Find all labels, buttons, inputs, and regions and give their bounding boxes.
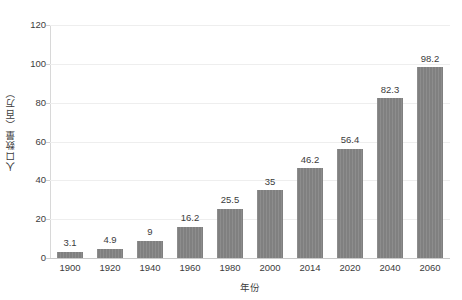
x-tick-label: 1900 <box>59 262 80 273</box>
bar-slot: 25.5 <box>210 25 250 258</box>
x-tick-label: 2014 <box>299 262 320 273</box>
bar-slot: 56.4 <box>330 25 370 258</box>
x-tick-label: 2040 <box>379 262 400 273</box>
x-tick-label: 2020 <box>339 262 360 273</box>
bar-value-label: 25.5 <box>221 195 240 205</box>
bar-slot: 98.2 <box>410 25 450 258</box>
y-axis-title-text: 人口数量（百万） <box>4 87 18 171</box>
bar[interactable] <box>137 241 163 258</box>
x-axis-title: 年份 <box>50 280 450 294</box>
bar[interactable] <box>217 209 243 259</box>
bar[interactable] <box>177 227 203 258</box>
bar-value-label: 82.3 <box>381 85 400 95</box>
bar[interactable] <box>257 190 283 258</box>
y-tick-label: 20 <box>20 214 46 224</box>
x-tick-label: 1940 <box>139 262 160 273</box>
x-tick-label: 2000 <box>259 262 280 273</box>
y-tick-label: 60 <box>20 137 46 147</box>
bar[interactable] <box>337 149 363 259</box>
bar[interactable] <box>57 252 83 258</box>
bar-value-label: 46.2 <box>301 155 320 165</box>
y-tick-label: 100 <box>20 59 46 69</box>
bar-value-label: 4.9 <box>103 235 116 245</box>
x-tick-label: 1980 <box>219 262 240 273</box>
bar-slot: 3.1 <box>50 25 90 258</box>
y-tick-label: 120 <box>20 20 46 30</box>
bar-value-label: 9 <box>147 227 152 237</box>
bar[interactable] <box>97 249 123 259</box>
bar[interactable] <box>377 98 403 258</box>
x-tick-label: 1920 <box>99 262 120 273</box>
bar-slot: 46.2 <box>290 25 330 258</box>
x-tick-label: 2060 <box>419 262 440 273</box>
bar-slot: 16.2 <box>170 25 210 258</box>
bar[interactable] <box>297 168 323 258</box>
bar-value-label: 56.4 <box>341 135 360 145</box>
bar-value-label: 3.1 <box>63 238 76 248</box>
y-axis-tick-labels: 020406080100120 <box>20 0 46 300</box>
bar-chart: 人口数量（百万） 020406080100120 3.14.9916.225.5… <box>0 0 462 300</box>
y-tick-label: 40 <box>20 176 46 186</box>
bar-slot: 35 <box>250 25 290 258</box>
x-axis-line <box>50 258 450 259</box>
x-axis-tick-labels: 1900192019401960198020002014202020402060 <box>50 262 450 278</box>
bar-series: 3.14.9916.225.53546.256.482.398.2 <box>50 25 450 258</box>
bar-value-label: 98.2 <box>421 54 440 64</box>
y-tick-mark <box>46 258 50 259</box>
bar-slot: 4.9 <box>90 25 130 258</box>
bar[interactable] <box>417 67 443 258</box>
y-axis-title: 人口数量（百万） <box>0 0 22 258</box>
bar-slot: 82.3 <box>370 25 410 258</box>
y-tick-label: 80 <box>20 98 46 108</box>
bar-value-label: 35 <box>265 177 276 187</box>
y-tick-label: 0 <box>20 253 46 263</box>
bar-value-label: 16.2 <box>181 213 200 223</box>
bar-slot: 9 <box>130 25 170 258</box>
x-tick-label: 1960 <box>179 262 200 273</box>
